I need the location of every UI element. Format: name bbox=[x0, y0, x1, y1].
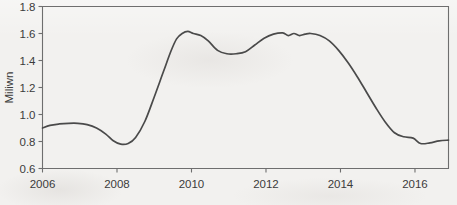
x-axis-tick-label: 2012 bbox=[253, 178, 279, 190]
x-axis-tick-label: 2016 bbox=[402, 178, 428, 190]
y-axis-tick-label: 1.2 bbox=[20, 82, 36, 94]
y-axis-tick-label: 0.6 bbox=[20, 163, 36, 175]
line-chart: 0.60.81.01.21.41.61.82006200820102012201… bbox=[0, 0, 457, 205]
chart-canvas: 0.60.81.01.21.41.61.82006200820102012201… bbox=[0, 0, 457, 205]
y-axis-tick-label: 0.8 bbox=[20, 136, 36, 148]
y-axis-title: Miliwn bbox=[3, 72, 15, 104]
x-axis-tick-label: 2008 bbox=[104, 178, 130, 190]
x-axis-tick-label: 2006 bbox=[30, 178, 56, 190]
plot-frame bbox=[43, 7, 449, 169]
y-axis-tick-label: 1.8 bbox=[20, 1, 36, 13]
y-axis-tick-label: 1.0 bbox=[20, 109, 36, 121]
y-axis-tick-label: 1.4 bbox=[20, 55, 37, 67]
x-axis-tick-label: 2010 bbox=[179, 178, 205, 190]
x-axis-tick-label: 2014 bbox=[328, 178, 354, 190]
data-series-line bbox=[43, 31, 449, 144]
y-axis-tick-label: 1.6 bbox=[20, 28, 36, 40]
